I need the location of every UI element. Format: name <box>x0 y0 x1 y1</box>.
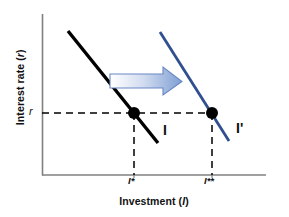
x-axis-tick-label-i-star: I* <box>128 176 134 186</box>
x-axis-title-suffix: ) <box>185 195 189 207</box>
x-axis-title: Investment (I) <box>42 196 266 207</box>
y-axis-title-variable: r <box>14 53 26 57</box>
investment-demand-figure: Interest rate (r) Investment (I) r I* I*… <box>0 0 289 217</box>
curve-label-investment-demand: I <box>163 123 167 137</box>
y-axis-title-prefix: Interest rate ( <box>14 57 26 125</box>
x-axis-tick-label-i-star-star: I** <box>204 176 214 186</box>
y-axis-title-suffix: ) <box>14 49 26 53</box>
plot-canvas <box>0 0 289 217</box>
equilibrium-point-new <box>206 107 218 119</box>
curve-label-investment-demand-shifted: I' <box>236 121 243 135</box>
rightward-shift-arrow-icon <box>110 67 182 95</box>
equilibrium-point-original <box>128 107 140 119</box>
x-axis-title-prefix: Investment ( <box>119 195 182 207</box>
y-axis-tick-label-r: r <box>29 106 33 117</box>
y-axis-title: Interest rate (r) <box>15 22 26 152</box>
